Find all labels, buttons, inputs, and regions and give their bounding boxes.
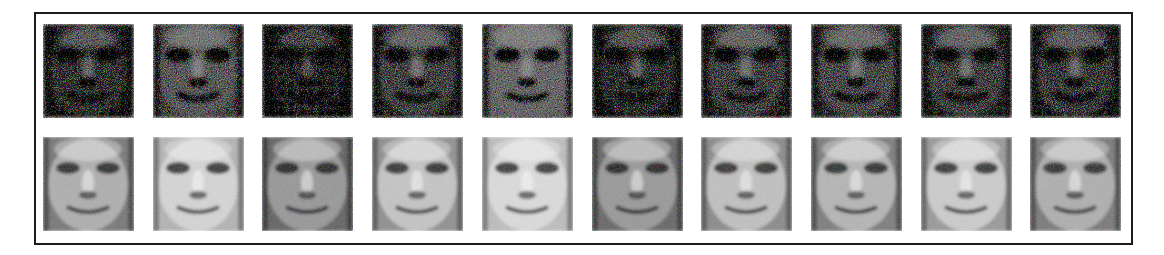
- noisy-face-3: [262, 24, 353, 118]
- reconstructed-face-2: [153, 137, 244, 231]
- noisy-face-4: [372, 24, 463, 118]
- reconstructed-face-9: [921, 137, 1012, 231]
- reconstructed-face-10: [1030, 137, 1121, 231]
- reconstructed-face-4: [372, 137, 463, 231]
- noisy-face-7: [701, 24, 792, 118]
- noisy-face-1: [43, 24, 134, 118]
- reconstructed-face-5: [482, 137, 573, 231]
- noisy-face-5: [482, 24, 573, 118]
- noisy-face-9: [921, 24, 1012, 118]
- reconstructed-face-7: [701, 137, 792, 231]
- noisy-face-8: [811, 24, 902, 118]
- reconstructed-face-1: [43, 137, 134, 231]
- noisy-face-10: [1030, 24, 1121, 118]
- reconstructed-face-8: [811, 137, 902, 231]
- reconstructed-face-3: [262, 137, 353, 231]
- noisy-face-6: [592, 24, 683, 118]
- noisy-face-2: [153, 24, 244, 118]
- reconstructed-face-6: [592, 137, 683, 231]
